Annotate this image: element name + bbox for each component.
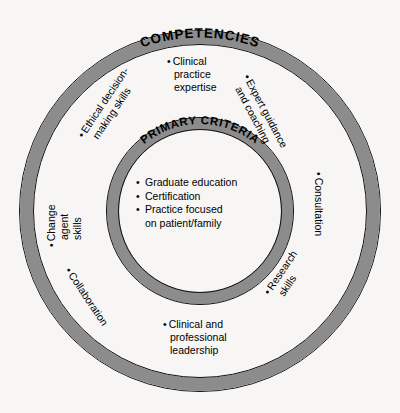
list-item-line: Graduate education: [145, 176, 272, 189]
competency-label-line: Clinical: [173, 55, 207, 67]
competency-label-change-agent-skills: •Change agent skills: [45, 205, 84, 247]
competency-label-line: practice: [167, 68, 217, 81]
bullet-icon: •: [136, 203, 140, 216]
competency-label-line: Clinical and: [169, 318, 223, 330]
competency-label-line: Consultation: [313, 178, 325, 236]
primary-criteria-list: • Graduate education • Certification • P…: [136, 176, 272, 230]
list-item: • Certification: [136, 190, 272, 203]
bullet-icon: •: [313, 172, 325, 176]
list-item-line: Certification: [145, 190, 272, 203]
bullet-icon: •: [136, 176, 140, 189]
competency-label-clinical-practice-expertise: •Clinical practice expertise: [167, 55, 217, 94]
bullet-icon: •: [45, 243, 57, 247]
competency-label-line: skills: [71, 205, 84, 247]
competency-label-line: leadership: [163, 344, 227, 357]
competency-label-line: Change: [45, 205, 57, 242]
competency-label-consultation: •Consultation: [312, 172, 325, 236]
list-item: • Practice focused on patient/family: [136, 203, 272, 229]
concentric-competency-diagram: COMPETENCIES PRIMARY CRITERIA • Graduate…: [0, 0, 400, 413]
bullet-icon: •: [163, 318, 167, 330]
list-item: • Graduate education: [136, 176, 272, 189]
competency-label-clinical-and-professional-leadership: •Clinical and professional leadership: [163, 318, 227, 357]
competency-label-line: agent: [58, 205, 71, 247]
competency-label-line: professional: [163, 331, 227, 344]
competency-label-line: expertise: [167, 81, 217, 94]
bullet-icon: •: [136, 190, 140, 203]
list-item-line: Practice focused: [145, 203, 272, 216]
bullet-icon: •: [167, 55, 171, 67]
list-item-line: on patient/family: [145, 217, 272, 230]
